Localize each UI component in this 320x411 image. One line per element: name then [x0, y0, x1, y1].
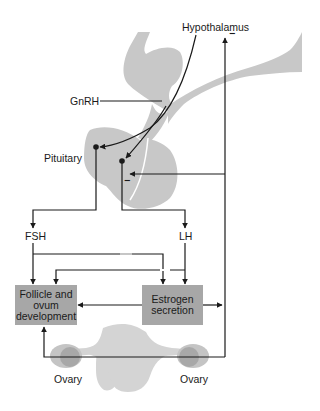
lh-cell-dot — [119, 158, 125, 164]
ovary-right-label: Ovary — [180, 374, 208, 385]
diagram-canvas — [0, 0, 320, 411]
pituitary-inhibit-sign: − — [124, 175, 130, 186]
lh-to-follicle-arrow — [56, 270, 185, 284]
gnrh-label: GnRH — [70, 96, 99, 107]
ovary-left-label: Ovary — [54, 374, 82, 385]
lh-label: LH — [179, 231, 192, 242]
follicle-development-box: Follicle and ovum development — [15, 285, 77, 325]
fsh-label: FSH — [25, 231, 46, 242]
fsh-cell-dot — [93, 144, 99, 150]
hypothalamus-label: Hypothalamus — [182, 22, 249, 33]
uterus — [62, 324, 196, 392]
fsh-to-estrogen-arrow — [33, 254, 163, 284]
hypothalamus-inhibit-sign: − — [229, 28, 235, 39]
estrogen-secretion-box: Estrogen secretion — [142, 285, 203, 325]
pituitary-label: Pituitary — [44, 153, 82, 164]
brain-tissue — [84, 32, 302, 209]
